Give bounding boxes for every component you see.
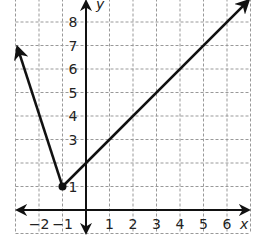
x-tick-label: −1 xyxy=(52,216,73,232)
right-ray xyxy=(63,1,249,187)
x-tick-label: 3 xyxy=(152,216,161,232)
y-tick-label: 8 xyxy=(69,14,78,30)
x-tick-label: 1 xyxy=(105,216,114,232)
y-tick-label: 6 xyxy=(69,61,78,77)
vertex-point xyxy=(59,183,67,191)
x-tick-label: 2 xyxy=(129,216,138,232)
x-tick-label: −2 xyxy=(29,216,50,232)
x-tick-label: 4 xyxy=(176,216,185,232)
x-axis-label: x xyxy=(239,216,249,232)
y-tick-label: 7 xyxy=(69,38,78,54)
y-tick-label: 5 xyxy=(69,85,78,101)
y-tick-label: 1 xyxy=(69,179,78,195)
x-tick-label: 6 xyxy=(223,216,232,232)
coordinate-graph: −2−11234561345678 x y xyxy=(0,0,255,244)
y-tick-label: 3 xyxy=(69,132,78,148)
x-tick-label: 5 xyxy=(199,216,208,232)
y-axis-label: y xyxy=(95,0,105,12)
left-ray xyxy=(18,48,63,187)
y-tick-label: 4 xyxy=(69,108,78,124)
